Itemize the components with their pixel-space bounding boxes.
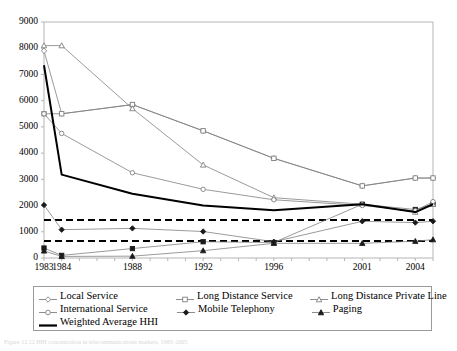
y-tick-label: 5000	[19, 121, 38, 131]
plot-area: 0100020003000400050006000700080009000198…	[0, 0, 457, 283]
plot-frame	[44, 22, 433, 258]
legend-label: Long Distance Service	[197, 290, 293, 302]
legend-row: International Service Mobile Telephony P…	[38, 303, 427, 316]
series-line-mobile-telephony	[44, 205, 433, 242]
data-point	[413, 176, 417, 180]
legend-label: Mobile Telephony	[198, 303, 275, 315]
data-point	[272, 156, 276, 160]
data-point	[200, 229, 205, 234]
y-tick-label: 1000	[19, 226, 38, 236]
x-tick-label: 1983	[35, 262, 54, 272]
data-point	[130, 226, 135, 231]
data-point	[200, 162, 205, 167]
series-line-long-distance-private-line	[44, 46, 433, 213]
data-point	[42, 112, 46, 116]
diamond-marker-icon	[38, 291, 58, 302]
x-tick-label: 1996	[264, 262, 283, 272]
data-point	[130, 246, 134, 250]
data-point	[59, 227, 64, 232]
data-point	[201, 129, 205, 133]
legend-item-international-service[interactable]: International Service	[38, 303, 176, 315]
chart-legend: Local Service Long Distance Service Long…	[33, 286, 432, 331]
legend-item-local-service[interactable]: Local Service	[38, 290, 175, 302]
triangle-marker-icon	[309, 291, 329, 302]
legend-item-long-distance-private-line[interactable]: Long Distance Private Line	[309, 290, 427, 302]
y-tick-label: 7000	[19, 69, 38, 79]
legend-label: Weighted Average HHI	[60, 316, 158, 328]
data-point	[59, 131, 63, 135]
y-tick-label: 6000	[19, 95, 38, 105]
square-marker-icon	[175, 291, 195, 302]
filled-diamond-marker-icon	[176, 304, 196, 315]
thick-line-marker-icon	[38, 317, 58, 328]
data-point	[431, 199, 435, 203]
data-point	[41, 48, 46, 53]
filled-triangle-marker-icon	[311, 304, 331, 315]
x-tick-label: 1988	[123, 262, 142, 272]
data-point	[130, 171, 134, 175]
series-line-local-service	[44, 51, 433, 186]
x-tick-label: 2004	[406, 262, 425, 272]
y-tick-label: 0	[33, 252, 38, 262]
data-point	[431, 176, 435, 180]
legend-item-long-distance-service[interactable]: Long Distance Service	[175, 290, 309, 302]
x-tick-label: 1984	[52, 262, 71, 272]
x-tick-label: 2001	[353, 262, 372, 272]
y-tick-label: 4000	[19, 147, 38, 157]
data-point	[430, 237, 435, 242]
y-tick-label: 3000	[19, 174, 38, 184]
legend-item-paging[interactable]: Paging	[311, 303, 427, 315]
chart-svg: 0100020003000400050006000700080009000198…	[0, 0, 457, 283]
legend-label: International Service	[60, 303, 148, 315]
figure-caption: Figure 12.12 HHI concentration in teleco…	[4, 339, 454, 346]
chart-figure: 0100020003000400050006000700080009000198…	[0, 0, 457, 351]
data-point	[41, 202, 46, 207]
legend-label: Long Distance Private Line	[331, 290, 447, 302]
y-tick-label: 9000	[19, 16, 38, 26]
data-point	[201, 240, 205, 244]
legend-item-weighted-average-hhi[interactable]: Weighted Average HHI	[38, 316, 178, 328]
legend-row: Local Service Long Distance Service Long…	[38, 290, 427, 303]
data-point	[272, 198, 276, 202]
legend-row: Weighted Average HHI	[38, 316, 427, 329]
data-point	[201, 187, 205, 191]
series-line-second-line-squares	[44, 204, 433, 255]
y-tick-label: 2000	[19, 200, 38, 210]
data-point	[360, 184, 364, 188]
series-line-weighted-average-hhi	[44, 65, 433, 212]
legend-label: Paging	[333, 303, 362, 315]
series-line-long-distance-service	[44, 105, 433, 186]
y-tick-label: 8000	[19, 42, 38, 52]
legend-item-mobile-telephony[interactable]: Mobile Telephony	[176, 303, 311, 315]
data-point	[59, 112, 63, 116]
x-tick-label: 1992	[194, 262, 213, 272]
legend-label: Local Service	[60, 290, 118, 302]
circle-marker-icon	[38, 304, 58, 315]
series-line-international-service	[44, 114, 433, 211]
